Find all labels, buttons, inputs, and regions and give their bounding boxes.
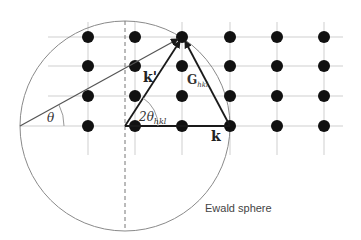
ewald-diagram: θ 2θhkl k' Ghkl k Ewald sphere <box>0 0 361 240</box>
two-theta-label: 2θhkl <box>138 110 167 126</box>
k-label: k <box>211 128 221 144</box>
ewald-sphere-label: Ewald sphere <box>205 202 272 214</box>
k-prime-label: k' <box>143 69 157 85</box>
theta-label: θ <box>47 111 55 125</box>
theta-angle-arc <box>59 105 64 126</box>
g-hkl-label: Ghkl <box>187 73 208 89</box>
